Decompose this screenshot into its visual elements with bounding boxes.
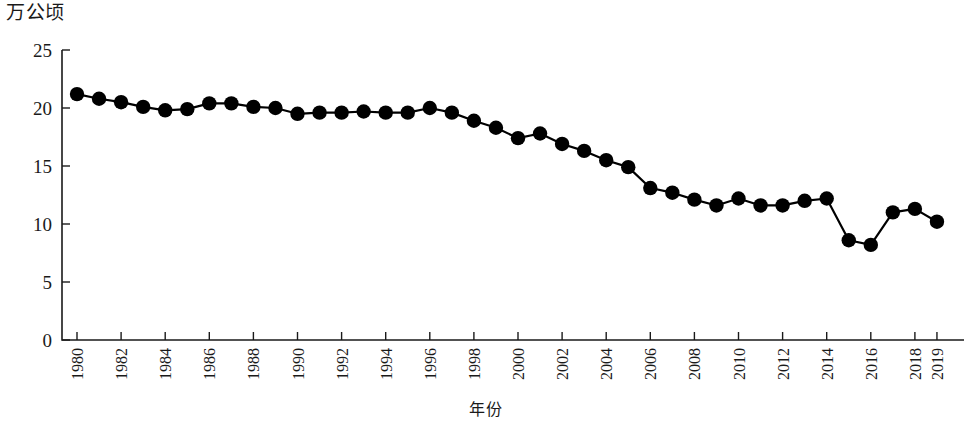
data-point-marker: [864, 238, 878, 252]
data-point-marker: [753, 198, 767, 212]
data-point-marker: [555, 137, 569, 151]
x-axis-tick-label: 2002: [554, 348, 571, 380]
data-point-marker: [511, 131, 525, 145]
x-axis-tick-label: 1984: [157, 348, 174, 380]
data-point-marker: [70, 87, 84, 101]
data-point-marker: [92, 92, 106, 106]
data-point-marker: [423, 101, 437, 115]
data-point-marker: [577, 144, 591, 158]
data-point-marker: [687, 192, 701, 206]
x-axis-tick-label: 2010: [731, 348, 748, 380]
data-point-marker: [224, 96, 238, 110]
x-axis-tick-label: 2006: [642, 348, 659, 380]
data-point-marker: [908, 202, 922, 216]
line-chart-plot: 0510152025 19801982198419861988199019921…: [0, 0, 972, 424]
series-line-area: [77, 94, 937, 245]
data-point-marker: [379, 105, 393, 119]
data-point-marker: [158, 103, 172, 117]
data-point-marker: [533, 126, 547, 140]
data-point-marker: [180, 102, 194, 116]
data-point-marker: [290, 107, 304, 121]
data-point-marker: [356, 104, 370, 118]
data-point-marker: [268, 101, 282, 115]
x-axis-tick-label: 1992: [334, 348, 351, 380]
data-point-marker: [930, 214, 944, 228]
y-axis-tick-label: 0: [43, 330, 53, 351]
y-axis-tick-label: 20: [33, 98, 52, 119]
data-point-marker: [246, 100, 260, 114]
x-axis-tick-label: 2004: [598, 348, 615, 380]
series-marker-group: [70, 87, 944, 252]
data-point-marker: [401, 105, 415, 119]
x-axis-tick-label: 2019: [929, 348, 946, 380]
data-point-marker: [643, 181, 657, 195]
data-point-marker: [797, 194, 811, 208]
data-point-marker: [312, 105, 326, 119]
data-point-marker: [334, 105, 348, 119]
data-point-marker: [489, 121, 503, 135]
x-axis-tick-label: 1980: [69, 348, 86, 380]
x-axis-tick-label: 2012: [775, 348, 792, 380]
data-point-marker: [445, 105, 459, 119]
x-axis-tick-label: 1998: [466, 348, 483, 380]
x-axis-tick-label: 1986: [201, 348, 218, 380]
y-axis-tick-label: 15: [33, 156, 52, 177]
y-axis-tick-label: 25: [33, 40, 52, 61]
chart-container: 万公顷 0510152025 1980198219841986198819901…: [0, 0, 972, 424]
x-axis-tick-label: 1982: [113, 348, 130, 380]
data-point-marker: [709, 198, 723, 212]
data-point-marker: [731, 191, 745, 205]
data-point-marker: [136, 100, 150, 114]
y-axis-tick-label: 5: [43, 272, 53, 293]
x-axis-title: 年份: [0, 396, 972, 420]
x-axis-tick-label: 1996: [422, 348, 439, 380]
data-point-marker: [842, 233, 856, 247]
data-point-marker: [467, 114, 481, 128]
data-point-marker: [621, 160, 635, 174]
x-axis-tick-label: 1994: [378, 348, 395, 380]
x-axis-tick-label: 2014: [819, 348, 836, 380]
data-point-marker: [599, 153, 613, 167]
x-axis-tick-label: 2000: [510, 348, 527, 380]
data-point-marker: [820, 191, 834, 205]
x-axis-tick-label: 2018: [907, 348, 924, 380]
data-point-marker: [665, 185, 679, 199]
y-axis-tick-label: 10: [33, 214, 52, 235]
data-point-marker: [775, 198, 789, 212]
data-point-marker: [886, 205, 900, 219]
x-axis-tick-label: 1988: [245, 348, 262, 380]
data-point-marker: [114, 95, 128, 109]
x-axis-tick-label: 1990: [290, 348, 307, 380]
x-axis-tick-label: 2016: [863, 348, 880, 380]
data-point-marker: [202, 96, 216, 110]
y-axis-tick-group: 0510152025: [33, 40, 70, 351]
x-axis-tick-label: 2008: [686, 348, 703, 380]
